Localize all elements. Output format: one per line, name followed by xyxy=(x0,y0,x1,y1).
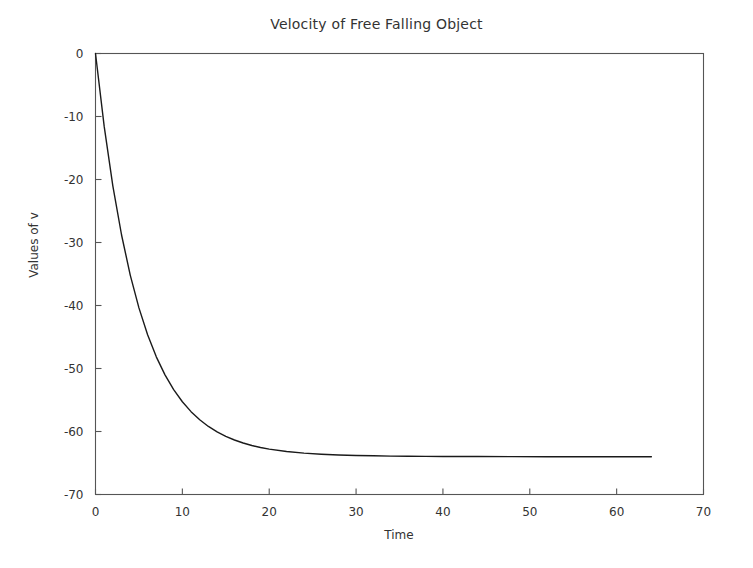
x-tick-label: 40 xyxy=(435,505,450,519)
y-tick-label: -70 xyxy=(64,488,84,502)
x-tick-label: 30 xyxy=(348,505,363,519)
y-tick-label: -60 xyxy=(64,425,84,439)
data-series-group xyxy=(96,54,652,457)
y-tick-label: -50 xyxy=(64,362,84,376)
y-tick-label: -20 xyxy=(64,173,84,187)
y-tick-label: -10 xyxy=(64,110,84,124)
x-tick-label: 20 xyxy=(262,505,277,519)
axes-frame xyxy=(96,54,704,495)
x-tick-label: 60 xyxy=(609,505,624,519)
chart-figure: Velocity of Free Falling Object Values o… xyxy=(0,0,753,568)
data-line-v xyxy=(96,54,652,457)
x-tick-label: 70 xyxy=(696,505,711,519)
x-tick-label: 0 xyxy=(92,505,100,519)
y-tick-label: -30 xyxy=(64,236,84,250)
x-tick-label: 10 xyxy=(175,505,190,519)
y-tick-label: -40 xyxy=(64,299,84,313)
x-axis-ticks: 010203040506070 xyxy=(92,489,711,519)
plot-area: 010203040506070 0-10-20-30-40-50-60-70 xyxy=(0,0,753,568)
y-tick-label: 0 xyxy=(76,47,84,61)
x-tick-label: 50 xyxy=(522,505,537,519)
